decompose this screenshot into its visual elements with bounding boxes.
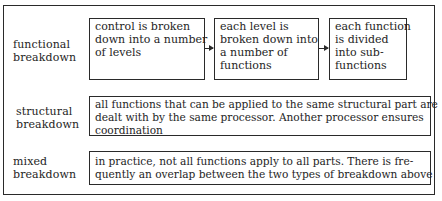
text-line: quently an overlap between the two types… — [95, 168, 425, 181]
arrow-right-icon — [319, 48, 328, 49]
text-line: of levels — [95, 46, 199, 59]
step-box-functions: each level is broken down into a number … — [214, 18, 319, 80]
structural-breakdown-label: structural breakdown — [16, 105, 79, 131]
text-line: all functions that can be applied to the… — [95, 98, 425, 111]
arrow-right-icon — [205, 48, 213, 49]
step-box-subfunctions: each function is divided into sub- funct… — [329, 18, 407, 80]
label-line: breakdown — [13, 51, 76, 64]
text-line: functions — [335, 59, 401, 72]
text-line: down into a number — [95, 33, 199, 46]
label-line: structural — [16, 105, 79, 118]
structural-description-box: all functions that can be applied to the… — [89, 96, 431, 136]
text-line: dealt with by the same processor. Anothe… — [95, 111, 425, 124]
text-line: each level is — [220, 20, 313, 33]
text-line: functions — [220, 59, 313, 72]
text-line: coordination — [95, 124, 425, 137]
mixed-description-box: in practice, not all functions apply to … — [89, 151, 431, 185]
label-line: breakdown — [16, 118, 79, 131]
functional-breakdown-label: functional breakdown — [13, 38, 76, 64]
text-line: into sub- — [335, 46, 401, 59]
label-line: breakdown — [13, 168, 76, 181]
mixed-breakdown-label: mixed breakdown — [13, 155, 76, 181]
text-line: broken down into — [220, 33, 313, 46]
step-box-levels: control is broken down into a number of … — [89, 18, 205, 80]
text-line: each function — [335, 20, 401, 33]
label-line: mixed — [13, 155, 76, 168]
text-line: in practice, not all functions apply to … — [95, 155, 425, 168]
label-line: functional — [13, 38, 76, 51]
text-line: is divided — [335, 33, 401, 46]
text-line: a number of — [220, 46, 313, 59]
text-line: control is broken — [95, 20, 199, 33]
